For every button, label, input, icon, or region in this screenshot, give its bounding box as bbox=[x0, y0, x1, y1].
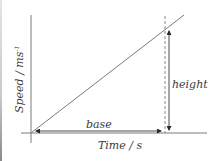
height-label: height bbox=[172, 78, 208, 91]
y-axis-label: Speed / ms-1 bbox=[13, 46, 26, 113]
y-axis-label-superscript: -1 bbox=[13, 46, 20, 52]
base-label: base bbox=[86, 118, 112, 131]
speed-line bbox=[31, 15, 184, 133]
speed-time-diagram: base height Time / s Speed / ms-1 bbox=[0, 0, 213, 161]
x-axis-label: Time / s bbox=[98, 139, 142, 152]
